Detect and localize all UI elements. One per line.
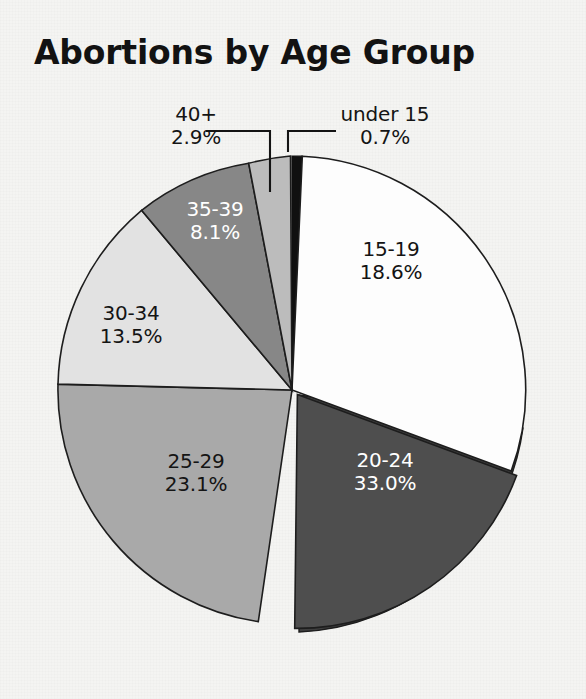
pie-label-20-24-value: 33.0%: [325, 472, 445, 495]
pie-label-30-34-category: 30-34: [71, 302, 191, 325]
pie-label-20-24-category: 20-24: [325, 449, 445, 472]
pie-chart-graphic: [0, 0, 586, 699]
leader-line-under-15: [288, 131, 336, 152]
pie-label-40-plus-value: 2.9%: [171, 125, 221, 149]
pie-label-20-24: 20-24 33.0%: [325, 449, 445, 496]
pie-label-under-15: under 15 0.7%: [336, 103, 434, 150]
pie-label-15-19-category: 15-19: [331, 238, 451, 261]
pie-chart-screenshot: Abortions by Age Group: [0, 0, 586, 699]
pie-label-35-39-category: 35-39: [160, 198, 270, 221]
pie-label-30-34-value: 13.5%: [71, 325, 191, 348]
pie-label-under-15-value: 0.7%: [360, 125, 410, 149]
pie-label-40-plus: 40+ 2.9%: [157, 103, 235, 150]
pie-label-25-29-value: 23.1%: [136, 473, 256, 496]
pie-label-25-29-category: 25-29: [136, 450, 256, 473]
pie-slices: [58, 156, 526, 628]
pie-label-under-15-category: under 15: [341, 102, 430, 126]
pie-label-40-plus-category: 40+: [175, 102, 217, 126]
pie-label-15-19: 15-19 18.6%: [331, 238, 451, 285]
pie-label-15-19-value: 18.6%: [331, 261, 451, 284]
pie-slice-25-29[interactable]: [58, 384, 292, 621]
pie-label-30-34: 30-34 13.5%: [71, 302, 191, 349]
pie-label-25-29: 25-29 23.1%: [136, 450, 256, 497]
pie-label-35-39-value: 8.1%: [160, 221, 270, 244]
pie-label-35-39: 35-39 8.1%: [160, 198, 270, 245]
